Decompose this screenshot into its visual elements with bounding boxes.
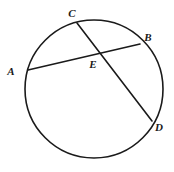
point-label-e: E [89, 59, 96, 70]
point-label-b: B [144, 32, 151, 43]
geometry-figure: A B C D E [0, 0, 174, 172]
circle-outline [25, 20, 163, 158]
point-label-a: A [7, 66, 14, 77]
point-label-d: D [155, 122, 163, 133]
chord-ab-line [28, 44, 140, 70]
point-label-c: C [68, 8, 75, 19]
geometry-canvas [0, 0, 174, 172]
